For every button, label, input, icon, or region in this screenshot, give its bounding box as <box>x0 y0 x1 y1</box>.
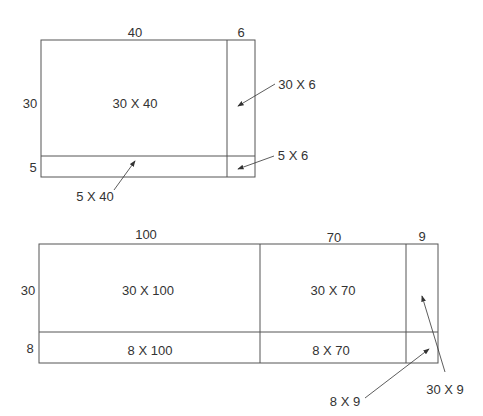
dim-width-100: 100 <box>135 227 157 242</box>
dim-height-8: 8 <box>26 341 33 356</box>
dim-height-30: 30 <box>21 283 35 298</box>
cell-label-top-a: 30 X 100 <box>122 283 174 298</box>
cell-label-bottom-a: 8 X 100 <box>128 343 173 358</box>
dim-height-30: 30 <box>23 96 37 111</box>
diagram-canvas <box>0 0 483 416</box>
dim-width-70: 70 <box>327 230 341 245</box>
dim-width-9: 9 <box>418 229 425 244</box>
cell-label-bottom-b: 8 X 70 <box>312 343 350 358</box>
cell-label-bottom-c: 8 X 9 <box>330 394 360 409</box>
cell-label-bottom: 5 X 40 <box>76 189 114 204</box>
cell-label-top-c: 30 X 9 <box>426 382 464 397</box>
cell-label-corner: 5 X 6 <box>278 148 308 163</box>
cell-label-main: 30 X 40 <box>113 96 158 111</box>
dim-width-6: 6 <box>237 25 244 40</box>
cell-label-top-b: 30 X 70 <box>311 283 356 298</box>
cell-label-right: 30 X 6 <box>278 77 316 92</box>
rectangle-diagram-2 <box>39 244 438 363</box>
dim-width-40: 40 <box>128 25 142 40</box>
dim-height-5: 5 <box>29 160 36 175</box>
